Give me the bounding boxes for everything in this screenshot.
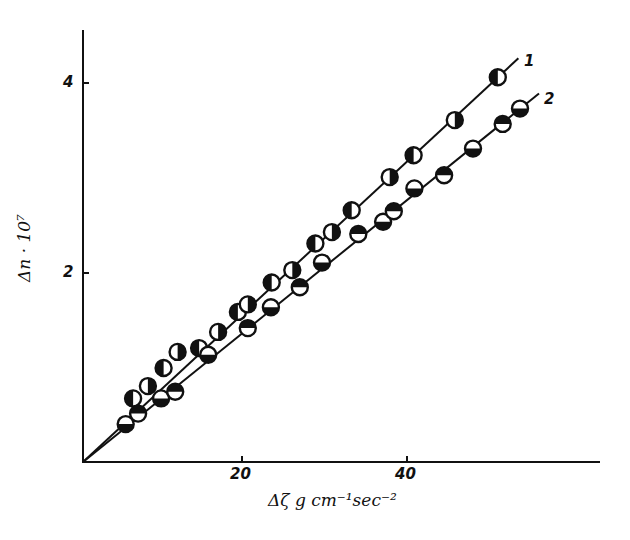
data-point xyxy=(284,262,300,278)
data-point xyxy=(495,116,511,132)
data-point xyxy=(406,147,422,163)
data-point xyxy=(156,360,172,376)
y-tick-label-2: 2 xyxy=(63,263,73,281)
y-tick-label-4: 4 xyxy=(63,73,73,91)
scatter-chart xyxy=(0,0,630,540)
data-point xyxy=(130,406,146,422)
x-tick-label-20: 20 xyxy=(230,465,251,483)
data-point xyxy=(406,180,422,196)
data-point xyxy=(240,296,256,312)
data-point xyxy=(490,69,506,85)
x-tick-label-40: 40 xyxy=(395,465,416,483)
series-layer xyxy=(83,58,539,462)
data-point xyxy=(324,224,340,240)
data-point xyxy=(292,279,308,295)
data-point xyxy=(465,141,481,157)
data-point xyxy=(210,324,226,340)
data-point xyxy=(382,169,398,185)
data-point xyxy=(344,202,360,218)
data-point xyxy=(170,344,186,360)
x-axis-title: Δζ g cm⁻¹sec⁻² xyxy=(268,490,397,510)
data-point xyxy=(125,390,141,406)
series-1-label: 1 xyxy=(524,52,534,70)
data-point xyxy=(240,320,256,336)
data-point xyxy=(447,112,463,128)
data-point xyxy=(264,275,280,291)
series-1 xyxy=(83,58,518,462)
data-point xyxy=(140,378,156,394)
y-axis-title: Δn · 10⁷ xyxy=(14,214,34,282)
data-point xyxy=(512,101,528,117)
data-point xyxy=(350,226,366,242)
data-point xyxy=(307,236,323,252)
data-point xyxy=(200,347,216,363)
data-point xyxy=(263,299,279,315)
data-point xyxy=(314,255,330,271)
series-2 xyxy=(83,93,539,462)
data-point xyxy=(386,203,402,219)
data-point xyxy=(167,384,183,400)
data-point xyxy=(436,167,452,183)
series-2-label: 2 xyxy=(544,90,554,108)
